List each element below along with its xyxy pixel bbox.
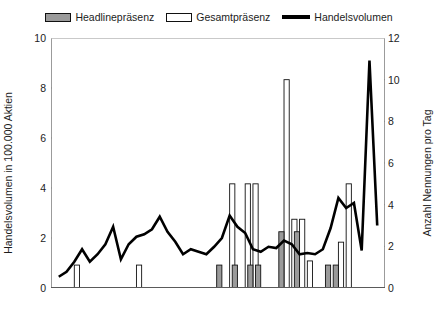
y-axis-left-tick-0: 0	[16, 282, 46, 294]
y-axis-right-tick-4: 4	[388, 199, 418, 211]
y-axis-right-title: Anzahl Nennungen pro Tag	[418, 38, 436, 308]
y-axis-right-tick-2: 2	[388, 240, 418, 252]
white-square-swatch-icon	[166, 13, 192, 22]
bar-gesamtpraesenz	[307, 261, 312, 288]
plot-area-wrapper: Handelsvolumen in 100.000 Aktien Anzahl …	[0, 38, 438, 324]
chart-legend: Headlinepräsenz Gesamtpräsenz Handelsvol…	[0, 8, 438, 26]
y-axis-right-tick-12: 12	[388, 32, 418, 44]
y-axis-left-ticklabels: 0246810	[14, 38, 46, 288]
bar-headlinepraesenz	[294, 232, 299, 288]
y-axis-right-title-text: Anzahl Nennungen pro Tag	[421, 109, 433, 236]
y-axis-left-tick-8: 8	[16, 82, 46, 94]
y-axis-left-tick-10: 10	[16, 32, 46, 44]
legend-label-headlinepraesenz: Headlinepräsenz	[75, 12, 154, 23]
y-axis-right-tick-8: 8	[388, 115, 418, 127]
legend-item-handelsvolumen: Handelsvolumen	[282, 12, 392, 23]
bar-gesamtpraesenz	[74, 265, 79, 288]
bar-gesamtpraesenz	[338, 242, 343, 288]
y-axis-left-tick-2: 2	[16, 232, 46, 244]
legend-item-headlinepraesenz: Headlinepräsenz	[45, 12, 154, 23]
bar-headlinepraesenz	[248, 265, 253, 288]
plot-canvas	[51, 38, 385, 288]
bar-headlinepraesenz	[325, 265, 330, 288]
y-axis-right-tick-6: 6	[388, 157, 418, 169]
chart-svg	[51, 38, 385, 288]
bar-group-gesamtpraesenz	[74, 80, 351, 288]
y-axis-right-tick-0: 0	[388, 282, 418, 294]
bar-headlinepraesenz	[217, 265, 222, 288]
black-line-swatch-icon	[282, 15, 310, 19]
legend-label-handelsvolumen: Handelsvolumen	[314, 12, 392, 23]
y-axis-left-title-text: Handelsvolumen in 100.000 Aktien	[2, 92, 14, 254]
bar-headlinepraesenz	[256, 265, 261, 288]
gray-square-swatch-icon	[45, 13, 71, 22]
chart-root: Headlinepräsenz Gesamtpräsenz Handelsvol…	[0, 0, 438, 324]
y-axis-left-tick-6: 6	[16, 132, 46, 144]
bar-gesamtpraesenz	[284, 80, 289, 288]
bar-headlinepraesenz	[333, 265, 338, 288]
y-axis-left-tick-4: 4	[16, 182, 46, 194]
line-handelsvolumen	[59, 61, 377, 277]
legend-label-gesamtpraesenz: Gesamtpräsenz	[196, 12, 270, 23]
y-axis-right-tick-10: 10	[388, 74, 418, 86]
bar-gesamtpraesenz	[136, 265, 141, 288]
bar-headlinepraesenz	[232, 265, 237, 288]
legend-item-gesamtpraesenz: Gesamtpräsenz	[166, 12, 270, 23]
bar-gesamtpraesenz	[346, 184, 351, 288]
y-axis-right-ticklabels: 024681012	[388, 38, 420, 288]
